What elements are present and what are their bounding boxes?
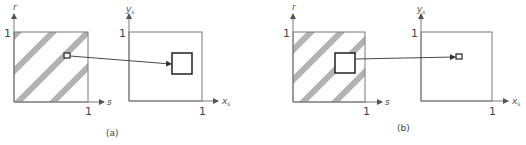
large-region-marker: [335, 53, 355, 73]
s-tick-1: 1: [85, 105, 92, 118]
ys-tick-1: 1: [119, 27, 126, 40]
xs-tick-1: 1: [199, 105, 206, 118]
small-region-marker: [64, 53, 70, 58]
xs-axis-label: xs: [511, 96, 520, 107]
mapping-diagram: r s 1 1 ys xs 1 1 (a) r s 1 1: [0, 0, 526, 145]
mapping-arrow-b: [355, 57, 455, 59]
panel-b-texture-plot: r s 1 1: [283, 0, 412, 118]
r-axis-label: r: [13, 2, 18, 12]
ys-axis-label: ys: [125, 4, 134, 15]
xs-axis-label: xs: [221, 96, 230, 107]
xs-tick-1: 1: [489, 105, 496, 118]
r-axis-label: r: [292, 2, 297, 12]
r-tick-1: 1: [283, 27, 290, 40]
ys-axis-label: ys: [416, 4, 425, 15]
caption-b: (b): [397, 123, 410, 133]
s-axis-label: s: [385, 97, 390, 107]
panel-b-screen-plot: ys xs 1 1: [411, 4, 520, 118]
s-tick-1: 1: [363, 105, 370, 118]
r-tick-1: 1: [4, 27, 11, 40]
ys-tick-1: 1: [411, 27, 418, 40]
s-axis-label: s: [107, 97, 112, 107]
unit-square: [421, 32, 492, 101]
mapping-arrow-a: [70, 56, 171, 64]
large-region-marker: [172, 53, 192, 74]
caption-a: (a): [106, 128, 119, 138]
small-region-marker: [456, 54, 462, 59]
